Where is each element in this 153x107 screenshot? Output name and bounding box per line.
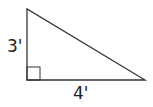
vertical-leg-label: 3' xyxy=(7,38,23,55)
right-triangle xyxy=(27,9,145,80)
right-angle-marker xyxy=(27,67,40,80)
horizontal-leg-label: 4' xyxy=(73,85,89,102)
